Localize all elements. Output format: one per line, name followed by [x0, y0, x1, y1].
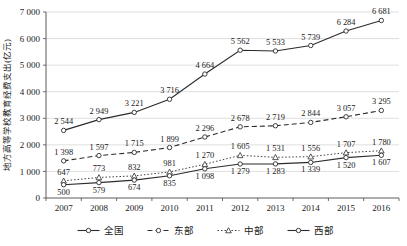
- y-axis-tick-label: 4 000: [20, 87, 41, 97]
- legend-label-西部[interactable]: 西部: [314, 225, 334, 236]
- data-point-东部: [273, 124, 277, 128]
- y-axis-tick-label: 0: [36, 193, 41, 203]
- data-point-全国: [379, 18, 383, 22]
- y-axis-tick-label: 1 000: [20, 167, 41, 177]
- data-point-东部: [309, 120, 313, 124]
- data-label: 500: [57, 188, 70, 197]
- data-point-西部: [273, 162, 277, 166]
- y-axis-title: 地方高等学校教育经费支出(亿元): [2, 39, 12, 171]
- data-point-西部: [309, 160, 313, 164]
- data-label: 6 681: [372, 7, 391, 16]
- data-point-中部: [237, 153, 243, 158]
- data-label: 1 899: [160, 135, 179, 144]
- legend-marker-西部: [296, 228, 300, 232]
- data-point-西部: [203, 167, 207, 171]
- chart-container: 01 0002 0003 0004 0005 0006 0007 0002007…: [0, 0, 407, 246]
- x-axis-tick-label: 2012: [231, 203, 249, 213]
- data-point-全国: [273, 49, 277, 53]
- data-point-中部: [308, 154, 314, 159]
- x-axis-tick-label: 2009: [125, 203, 144, 213]
- x-axis-tick-label: 2013: [266, 203, 285, 213]
- data-point-西部: [238, 162, 242, 166]
- data-point-东部: [203, 135, 207, 139]
- data-label: 1 279: [231, 167, 250, 176]
- data-point-西部: [379, 153, 383, 157]
- data-label: 1 780: [372, 138, 391, 147]
- data-point-全国: [238, 48, 242, 52]
- data-label: 1 605: [231, 142, 250, 151]
- data-point-中部: [96, 175, 102, 180]
- data-label: 835: [163, 179, 176, 188]
- x-axis-tick-label: 2007: [55, 203, 74, 213]
- data-point-全国: [344, 29, 348, 33]
- data-point-西部: [344, 155, 348, 159]
- data-label: 1 283: [266, 167, 285, 176]
- data-label: 5 739: [301, 33, 320, 42]
- y-axis-tick-label: 3 000: [20, 113, 41, 123]
- data-label: 3 057: [337, 104, 356, 113]
- data-label: 2 296: [195, 124, 214, 133]
- x-axis-tick-label: 2011: [196, 203, 214, 213]
- data-label: 1 597: [90, 143, 109, 152]
- series-line-全国: [64, 20, 382, 130]
- legend-label-全国[interactable]: 全国: [104, 225, 124, 236]
- data-point-西部: [167, 174, 171, 178]
- data-label: 1 339: [301, 165, 320, 174]
- data-label: 2 949: [90, 107, 109, 116]
- y-axis-tick-label: 2 000: [20, 140, 41, 150]
- series-line-西部: [64, 155, 382, 184]
- legend-marker-全国: [86, 228, 90, 232]
- data-label: 647: [57, 168, 70, 177]
- x-axis-tick-label: 2016: [372, 203, 391, 213]
- data-label: 5 533: [266, 38, 285, 47]
- data-point-全国: [309, 43, 313, 47]
- legend-label-东部[interactable]: 东部: [174, 225, 194, 236]
- data-point-东部: [61, 159, 65, 163]
- data-label: 1 707: [337, 140, 356, 149]
- series-line-中部: [64, 151, 382, 181]
- x-axis-tick-label: 2010: [161, 203, 180, 213]
- data-point-中部: [273, 155, 279, 160]
- data-label: 2 678: [231, 114, 250, 123]
- data-point-中部: [131, 173, 137, 178]
- legend-marker-东部: [156, 228, 160, 232]
- data-label: 1 270: [195, 151, 214, 160]
- data-point-东部: [97, 153, 101, 157]
- data-label: 3 716: [160, 86, 179, 95]
- data-point-西部: [132, 178, 136, 182]
- data-label: 6 284: [337, 18, 357, 27]
- data-point-西部: [97, 180, 101, 184]
- data-label: 832: [128, 163, 141, 172]
- data-point-东部: [167, 145, 171, 149]
- data-label: 1 607: [372, 158, 391, 167]
- data-label: 1 556: [301, 144, 320, 153]
- data-label: 1 098: [195, 172, 214, 181]
- data-point-中部: [379, 148, 385, 153]
- data-label: 1 715: [125, 139, 144, 148]
- data-point-全国: [167, 97, 171, 101]
- data-label: 2 844: [301, 109, 321, 118]
- data-point-西部: [61, 183, 65, 187]
- data-label: 5 562: [231, 37, 250, 46]
- y-axis-tick-label: 5 000: [20, 60, 41, 70]
- data-point-东部: [132, 150, 136, 154]
- x-axis-tick-label: 2015: [337, 203, 356, 213]
- data-label: 674: [128, 183, 141, 192]
- data-label: 773: [93, 164, 106, 173]
- data-label: 1 520: [337, 161, 356, 170]
- data-label: 4 664: [195, 61, 215, 70]
- data-label: 1 398: [54, 148, 73, 157]
- data-label: 579: [93, 186, 106, 195]
- data-label: 1 531: [266, 144, 285, 153]
- data-label: 2 544: [54, 117, 74, 126]
- data-point-全国: [203, 72, 207, 76]
- data-label: 2 719: [266, 113, 285, 122]
- legend-label-中部[interactable]: 中部: [244, 225, 264, 236]
- x-axis-tick-label: 2014: [302, 203, 321, 213]
- data-point-东部: [344, 115, 348, 119]
- data-label: 3 221: [125, 99, 144, 108]
- data-point-全国: [97, 117, 101, 121]
- data-label: 981: [163, 159, 176, 168]
- line-chart: 01 0002 0003 0004 0005 0006 0007 0002007…: [0, 0, 407, 246]
- data-point-全国: [61, 128, 65, 132]
